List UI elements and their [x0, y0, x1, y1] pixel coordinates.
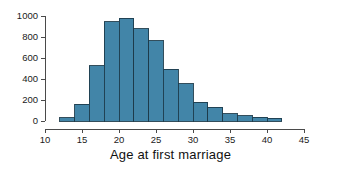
histogram-bar — [149, 41, 164, 121]
histogram-bar — [193, 102, 208, 121]
histogram-bar — [178, 84, 193, 121]
x-tick-label: 35 — [225, 134, 236, 145]
x-tick-label: 15 — [77, 134, 88, 145]
histogram-bar — [119, 18, 134, 121]
y-tick-label: 600 — [22, 52, 38, 63]
histogram-bars — [60, 18, 282, 121]
histogram-bar — [208, 107, 223, 121]
x-tick-label: 10 — [40, 134, 51, 145]
y-tick-label: 400 — [22, 73, 38, 84]
x-axis-title: Age at first marriage — [0, 147, 341, 162]
histogram-bar — [104, 22, 119, 121]
x-axis: 1015202530354045 — [40, 129, 310, 145]
histogram-bar — [237, 116, 252, 121]
y-tick-label: 1000 — [17, 10, 38, 21]
y-axis: 02004006008001000 — [17, 10, 45, 126]
histogram-figure: 020040060080010001015202530354045 Age at… — [0, 0, 341, 173]
x-tick-label: 40 — [262, 134, 273, 145]
histogram-bar — [60, 118, 75, 121]
histogram-bar — [252, 117, 267, 121]
x-tick-label: 20 — [114, 134, 125, 145]
x-tick-label: 45 — [299, 134, 310, 145]
histogram-bar — [89, 66, 104, 121]
y-tick-label: 0 — [33, 115, 38, 126]
x-tick-label: 25 — [151, 134, 162, 145]
histogram-bar — [267, 118, 282, 121]
histogram-bar — [223, 114, 238, 121]
y-tick-label: 200 — [22, 94, 38, 105]
histogram-bar — [134, 29, 149, 121]
y-tick-label: 800 — [22, 31, 38, 42]
histogram-bar — [75, 104, 90, 121]
x-tick-label: 30 — [188, 134, 199, 145]
histogram-bar — [163, 69, 178, 121]
